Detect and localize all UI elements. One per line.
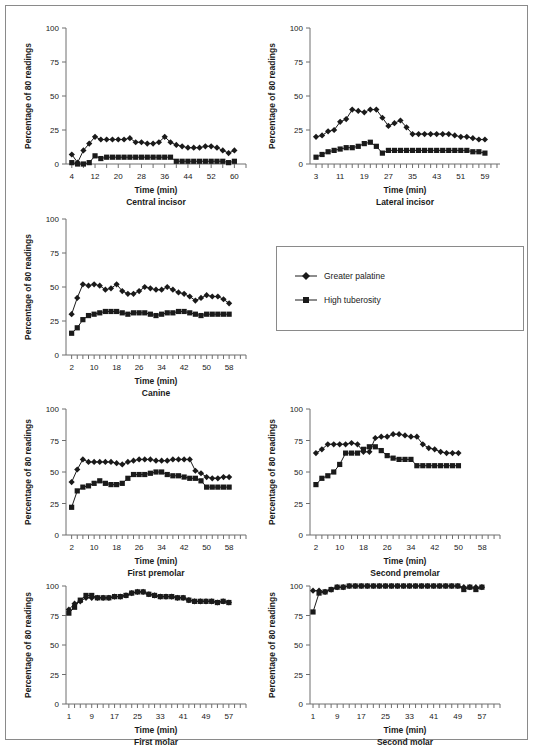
data-point-diamond	[125, 459, 131, 465]
x-tick-label: 50	[202, 363, 211, 372]
y-tick-label: 0	[55, 351, 60, 360]
data-point-square	[215, 600, 220, 605]
data-point-diamond	[422, 131, 428, 137]
data-point-diamond	[348, 440, 354, 446]
data-point-diamond	[181, 291, 187, 297]
data-point-diamond	[372, 435, 378, 441]
data-point-diamond	[325, 128, 331, 134]
data-point-square	[221, 312, 226, 317]
x-tick-label: 10	[90, 363, 99, 372]
data-point-square	[325, 473, 330, 478]
data-point-diamond	[102, 459, 108, 465]
data-point-diamond	[170, 287, 176, 293]
chart-panel-second-premolar: 0255075100210182634425058Percentage of 8…	[264, 399, 514, 579]
panel-title: Central incisor	[126, 197, 186, 207]
data-point-diamond	[391, 120, 397, 126]
data-point-diamond	[164, 284, 170, 290]
data-point-diamond	[69, 311, 75, 317]
y-axis-title: Percentage of 80 readings	[23, 592, 33, 698]
x-axis-title: Time (min)	[384, 556, 427, 566]
data-point-square	[404, 148, 409, 153]
data-point-square	[361, 447, 366, 452]
data-point-square	[198, 599, 203, 604]
data-point-square	[432, 463, 437, 468]
y-axis-title: Percentage of 80 readings	[23, 419, 33, 525]
x-tick-label: 2	[69, 363, 74, 372]
data-point-square	[401, 583, 406, 588]
y-tick-label: 100	[46, 24, 60, 33]
data-point-square	[174, 159, 179, 164]
data-point-square	[338, 146, 343, 151]
data-point-square	[467, 585, 472, 590]
x-tick-label: 58	[225, 543, 234, 552]
data-point-diamond	[147, 285, 153, 291]
data-point-diamond	[384, 434, 390, 440]
data-point-square	[344, 145, 349, 150]
data-point-diamond	[458, 134, 464, 140]
data-point-square	[226, 160, 231, 165]
data-point-square	[389, 583, 394, 588]
y-tick-label: 25	[50, 500, 59, 509]
y-tick-label: 100	[290, 582, 304, 591]
data-point-diamond	[310, 588, 316, 594]
square-marker-icon	[295, 295, 317, 305]
data-point-square	[414, 463, 419, 468]
chart-second-premolar: 0255075100210182634425058Percentage of 8…	[264, 399, 514, 579]
data-point-square	[193, 476, 198, 481]
y-tick-label: 0	[55, 531, 60, 540]
data-point-diamond	[125, 291, 131, 297]
data-point-square	[356, 144, 361, 149]
data-point-diamond	[220, 474, 226, 480]
data-point-square	[456, 463, 461, 468]
y-tick-label: 75	[294, 437, 303, 446]
series-line	[313, 586, 482, 612]
x-tick-label: 35	[408, 172, 417, 181]
data-point-square	[332, 148, 337, 153]
data-point-square	[362, 141, 367, 146]
x-tick-label: 19	[360, 172, 369, 181]
data-point-square	[379, 448, 384, 453]
y-tick-label: 25	[294, 671, 303, 680]
y-tick-label: 0	[55, 700, 60, 709]
data-point-diamond	[130, 458, 136, 464]
data-point-diamond	[91, 459, 97, 465]
data-point-square	[310, 609, 315, 614]
data-point-diamond	[204, 292, 210, 298]
x-tick-label: 27	[384, 172, 393, 181]
data-point-square	[464, 148, 469, 153]
data-point-square	[482, 151, 487, 156]
legend-item-high-tuberosity: High tuberosity	[295, 295, 381, 305]
y-tick-label: 75	[50, 612, 59, 621]
chart-first-molar: 025507510019172533414957Percentage of 80…	[20, 576, 260, 747]
y-tick-label: 0	[55, 160, 60, 169]
data-point-diamond	[464, 134, 470, 140]
data-point-square	[108, 309, 113, 314]
data-point-square	[210, 312, 215, 317]
data-point-square	[108, 482, 113, 487]
data-point-square	[470, 149, 475, 154]
x-tick-label: 36	[160, 172, 169, 181]
data-point-square	[349, 451, 354, 456]
data-point-square	[367, 444, 372, 449]
data-point-square	[145, 155, 150, 160]
data-point-square	[391, 456, 396, 461]
data-point-square	[227, 485, 232, 490]
x-tick-label: 26	[383, 543, 392, 552]
data-point-square	[92, 481, 97, 486]
data-point-diamond	[452, 132, 458, 138]
data-point-square	[398, 148, 403, 153]
x-tick-label: 26	[135, 363, 144, 372]
y-tick-label: 0	[299, 160, 304, 169]
data-point-diamond	[187, 456, 193, 462]
data-point-diamond	[153, 287, 159, 293]
data-point-diamond	[104, 136, 110, 142]
data-point-square	[322, 589, 327, 594]
data-point-diamond	[361, 109, 367, 115]
data-point-diamond	[164, 458, 170, 464]
y-tick-label: 0	[299, 531, 304, 540]
data-point-diamond	[366, 449, 372, 455]
data-point-square	[438, 463, 443, 468]
y-tick-label: 25	[50, 671, 59, 680]
data-point-square	[373, 444, 378, 449]
data-point-square	[86, 483, 91, 488]
